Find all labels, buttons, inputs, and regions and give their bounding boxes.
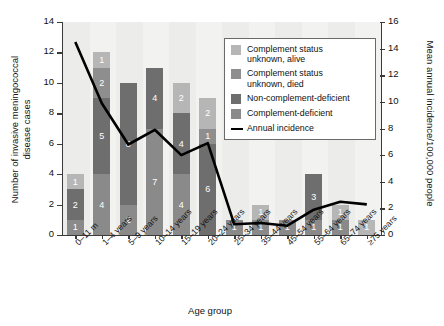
annual-incidence-line <box>0 0 444 326</box>
legend-swatch <box>231 109 241 119</box>
legend-label: Complement-deficient <box>247 108 333 118</box>
legend-item: Annual incidence <box>231 123 369 133</box>
legend-swatch <box>231 45 241 55</box>
legend-swatch <box>231 94 241 104</box>
legend-item: Complement-deficient <box>231 108 369 119</box>
legend-line-marker <box>231 128 243 130</box>
legend-item: Complement statusunknown, died <box>231 68 369 88</box>
legend-swatch <box>231 69 241 79</box>
legend-label: Annual incidence <box>247 123 314 133</box>
legend-item: Complement statusunknown, alive <box>231 44 369 64</box>
legend-label: Complement statusunknown, died <box>247 68 323 88</box>
chart-figure: Number of invasive meningococcal disease… <box>0 0 444 326</box>
legend-item: Non-complement-deficient <box>231 93 369 104</box>
legend-label: Non-complement-deficient <box>247 93 350 103</box>
legend-label: Complement statusunknown, alive <box>247 44 323 64</box>
chart-legend: Complement statusunknown, aliveComplemen… <box>224 38 376 140</box>
